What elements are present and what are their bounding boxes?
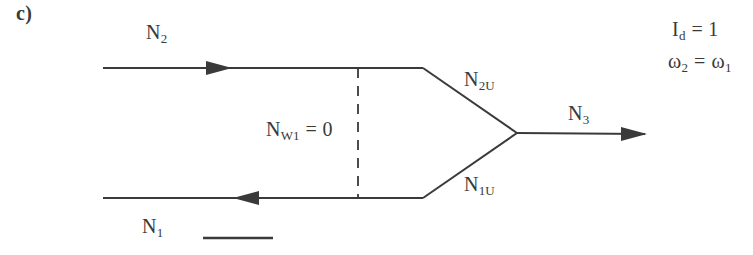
right-arrowhead-upper-beam [206,61,232,75]
label-omega-equals: = [694,50,706,72]
label-nw1: NW1= 0 [266,119,333,139]
label-nw1-sub: W1 [281,128,300,143]
label-n2u: N2U [464,69,495,89]
label-n1u-base: N [464,173,479,195]
label-omega-rhs-sub: 1 [725,60,732,75]
panel-label: c) [16,3,32,23]
label-n2-base: N [146,21,161,43]
label-n1: N1 [142,216,163,236]
label-n2u-base: N [464,68,479,90]
diagram-lines [0,0,753,255]
label-n3: N3 [568,103,589,123]
label-n2u-sub: 2U [479,78,495,93]
label-omega-lhs-base: ω [668,50,681,72]
label-n1u: N1U [464,174,495,194]
label-id-base: I [672,18,679,40]
label-n1-sub: 1 [157,225,164,240]
label-id-condition: Id= 1 [672,19,719,39]
label-nw1-rest: = 0 [306,118,333,140]
label-n1u-sub: 1U [479,183,495,198]
label-n2-sub: 2 [161,31,168,46]
label-n1-base: N [142,215,157,237]
figure-panel-c: c) N2 NW1= 0 N2U N1U N3 N1 Id= 1 ω2=ω1 [0,0,753,255]
label-id-sub: d [679,28,686,43]
left-arrowhead-lower-beam [233,191,259,205]
label-n2: N2 [146,22,167,42]
label-nw1-base: N [266,118,281,140]
label-id-rest: = 1 [691,18,718,40]
label-omega-condition: ω2=ω1 [668,51,732,71]
label-n3-sub: 3 [583,112,590,127]
label-omega-rhs-base: ω [712,50,725,72]
right-arrowhead-output-beam [621,127,647,141]
label-n3-base: N [568,102,583,124]
label-omega-lhs-sub: 2 [681,60,688,75]
